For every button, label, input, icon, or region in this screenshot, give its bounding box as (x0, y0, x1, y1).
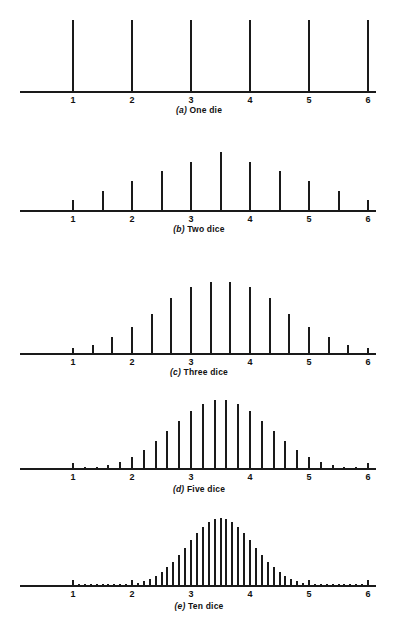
spike (202, 404, 204, 468)
spike (332, 584, 334, 585)
spike (155, 576, 157, 585)
spike (284, 441, 286, 468)
spike (273, 567, 275, 585)
x-tick (249, 348, 251, 355)
x-tick (131, 86, 133, 93)
panel-caption-d: (d) Five dice (0, 484, 398, 495)
spike (107, 584, 109, 585)
x-tick-label: 5 (299, 95, 319, 105)
x-tick-label: 1 (63, 214, 83, 224)
spike (202, 527, 204, 585)
dice-average-distribution-figure: 123456(a) One die123456(b) Two dice12345… (0, 0, 398, 629)
x-tick-label: 5 (299, 472, 319, 482)
panel-caption-label-a: (a) (176, 105, 187, 115)
x-tick (367, 463, 369, 470)
panel-caption-e: (e) Ten dice (0, 601, 398, 612)
spike (196, 533, 198, 585)
panel-caption-text-b: Two dice (187, 224, 224, 234)
spike (225, 519, 227, 585)
x-tick (367, 86, 369, 93)
x-tick-label: 2 (122, 214, 142, 224)
x-tick-label: 4 (240, 214, 260, 224)
x-tick-label: 1 (63, 357, 83, 367)
x-tick-label: 5 (299, 357, 319, 367)
x-tick (190, 86, 192, 93)
spike (113, 584, 115, 585)
spike (338, 584, 340, 585)
x-tick (72, 86, 74, 93)
spike (131, 20, 133, 91)
x-tick (72, 580, 74, 587)
spike (166, 431, 168, 468)
spike (190, 411, 192, 468)
spike (172, 562, 174, 585)
x-tick (190, 580, 192, 587)
x-tick-label: 5 (299, 589, 319, 599)
spike (220, 152, 222, 210)
spike (231, 522, 233, 585)
x-tick (308, 348, 310, 355)
spike (96, 467, 98, 468)
spike (149, 579, 151, 585)
spike (290, 579, 292, 585)
spike (143, 581, 145, 585)
spike (249, 162, 251, 210)
x-tick (190, 205, 192, 212)
x-tick (249, 86, 251, 93)
x-tick-label: 2 (122, 357, 142, 367)
x-tick-label: 5 (299, 214, 319, 224)
spike (249, 20, 251, 91)
spike (355, 584, 357, 585)
spike (279, 572, 281, 585)
spike (78, 584, 80, 585)
spike (349, 584, 351, 585)
spike (367, 20, 369, 91)
x-tick (190, 348, 192, 355)
spike (111, 337, 113, 353)
x-tick (190, 463, 192, 470)
x-tick-label: 3 (181, 472, 201, 482)
x-tick-label: 6 (358, 357, 378, 367)
x-tick-label: 1 (63, 589, 83, 599)
spike (92, 345, 94, 353)
x-tick (249, 580, 251, 587)
panel-caption-c: (c) Three dice (0, 367, 398, 378)
spike (96, 584, 98, 585)
spike (119, 462, 121, 468)
spike (178, 555, 180, 585)
spike (161, 171, 163, 210)
spike (343, 467, 345, 468)
spike (343, 584, 345, 585)
spike (90, 584, 92, 585)
x-tick-label: 4 (240, 472, 260, 482)
spike (214, 519, 216, 585)
spike (214, 400, 216, 468)
spike (261, 555, 263, 585)
spike (225, 400, 227, 468)
x-tick-label: 6 (358, 95, 378, 105)
spike (347, 345, 349, 353)
x-tick-label: 2 (122, 472, 142, 482)
spike (208, 522, 210, 585)
panel-caption-text-d: Five dice (187, 484, 225, 494)
x-tick (131, 580, 133, 587)
spike (279, 171, 281, 210)
x-tick-label: 4 (240, 589, 260, 599)
spike (107, 465, 109, 468)
spike (314, 584, 316, 585)
x-tick (72, 463, 74, 470)
x-tick-label: 6 (358, 589, 378, 599)
x-tick (131, 205, 133, 212)
spike (355, 467, 357, 468)
spike (84, 467, 86, 468)
x-tick-label: 2 (122, 589, 142, 599)
spike (210, 282, 212, 353)
panel-caption-text-a: One die (189, 105, 222, 115)
spike (288, 314, 290, 353)
spike (284, 576, 286, 585)
spike (296, 581, 298, 585)
x-tick-label: 6 (358, 214, 378, 224)
spike (308, 20, 310, 91)
spike (296, 450, 298, 468)
spike (361, 584, 363, 585)
